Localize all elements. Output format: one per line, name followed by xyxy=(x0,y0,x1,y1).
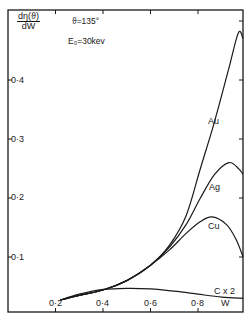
x-axis-label: W xyxy=(221,299,230,308)
x-tick-label: 0·2 xyxy=(49,299,62,308)
axis-ticks xyxy=(8,10,243,312)
y-tick-label: 0·2 xyxy=(11,193,24,202)
series-label-au: Au xyxy=(208,117,219,126)
series-label-cu: Cu xyxy=(208,222,220,231)
data-curves xyxy=(60,31,243,300)
angle-annotation: ϑ=135° xyxy=(72,17,99,26)
y-tick-label: 0·4 xyxy=(11,76,24,85)
x-tick-label: 0·4 xyxy=(96,299,109,308)
y-axis-label: dη(ϑ) dW xyxy=(17,12,40,31)
curve-au xyxy=(60,31,243,300)
y-axis-label-denominator: dW xyxy=(17,22,40,31)
x-tick-label: 0·6 xyxy=(144,299,157,308)
x-tick-label: 0·8 xyxy=(191,299,204,308)
series-label-c-x2: C x 2 xyxy=(214,287,235,296)
y-tick-label: 0·1 xyxy=(11,253,24,262)
plot-frame xyxy=(8,10,243,312)
energy-annotation: E₀=30kev xyxy=(68,37,105,46)
series-label-ag: Ag xyxy=(209,183,220,192)
chart-canvas xyxy=(0,0,249,316)
y-tick-label: 0·3 xyxy=(11,135,24,144)
